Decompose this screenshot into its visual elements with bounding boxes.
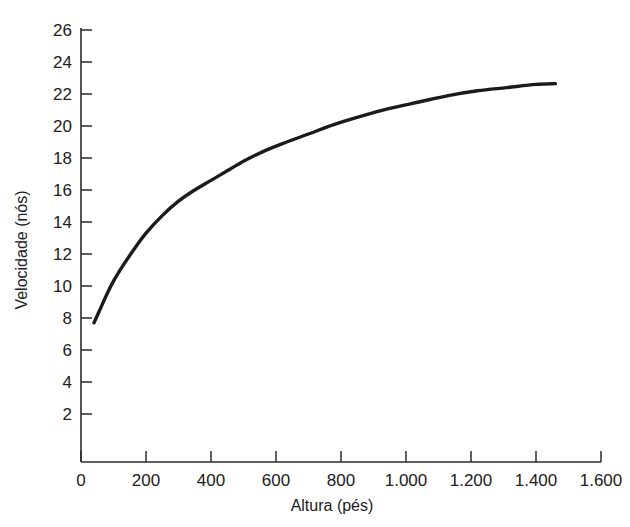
y-tick-label: 26 <box>53 21 72 40</box>
x-tick-group: 02004006008001.0001.2001.4001.600 <box>76 451 622 490</box>
y-tick-label: 24 <box>53 53 72 72</box>
x-tick-label: 1.600 <box>580 471 623 490</box>
y-tick-label: 16 <box>53 181 72 200</box>
y-tick-label: 18 <box>53 149 72 168</box>
x-tick-label: 400 <box>197 471 225 490</box>
x-tick-label: 600 <box>262 471 290 490</box>
chart-figure: Velocidade (nós) Altura (pés) 2468101214… <box>0 0 630 527</box>
y-tick-label: 6 <box>63 341 72 360</box>
x-tick-label: 1.000 <box>385 471 428 490</box>
y-tick-group: 2468101214161820222426 <box>53 21 92 424</box>
y-tick-label: 12 <box>53 245 72 264</box>
x-tick-label: 200 <box>132 471 160 490</box>
y-tick-label: 14 <box>53 213 72 232</box>
chart-svg: Velocidade (nós) Altura (pés) 2468101214… <box>0 0 630 527</box>
x-axis-title: Altura (pés) <box>291 497 374 514</box>
y-tick-label: 2 <box>63 405 72 424</box>
data-series-line <box>94 84 556 323</box>
y-tick-label: 8 <box>63 309 72 328</box>
x-tick-label: 1.200 <box>450 471 493 490</box>
x-tick-label: 800 <box>327 471 355 490</box>
y-tick-label: 4 <box>63 373 72 392</box>
x-tick-label: 1.400 <box>515 471 558 490</box>
y-tick-label: 10 <box>53 277 72 296</box>
y-axis-title: Velocidade (nós) <box>13 190 30 309</box>
y-tick-label: 22 <box>53 85 72 104</box>
y-tick-label: 20 <box>53 117 72 136</box>
x-tick-label: 0 <box>76 471 85 490</box>
